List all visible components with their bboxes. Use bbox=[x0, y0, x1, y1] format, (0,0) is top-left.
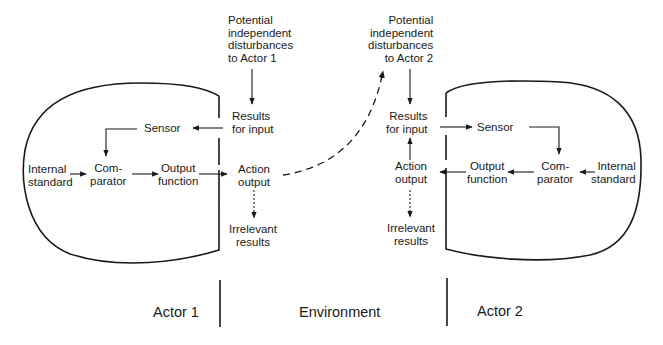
environment-region-label: Environment bbox=[299, 304, 380, 320]
arrow-sensor-to-comparator1 bbox=[106, 129, 137, 156]
sensor1-label: Sensor bbox=[144, 122, 180, 135]
irrelevant-results1-label: Irrelevant results bbox=[229, 223, 277, 248]
irrelevant-results2-label: Irrelevant results bbox=[387, 222, 435, 247]
comparator2-label: Com- parator bbox=[537, 160, 573, 185]
actor1-region-label: Actor 1 bbox=[153, 304, 199, 320]
arrow-action1-to-disturbances2 bbox=[283, 71, 383, 175]
disturbances-actor1-label: Potential independent disturbances to Ac… bbox=[228, 14, 293, 64]
arrow-sensor-to-comparator2 bbox=[529, 127, 559, 154]
actor2-region-label: Actor 2 bbox=[477, 303, 523, 319]
sensor2-label: Sensor bbox=[477, 121, 513, 134]
output-function1-label: Output function bbox=[158, 162, 198, 187]
results-for-input-2-label: Results for input bbox=[386, 110, 428, 135]
comparator1-label: Com- parator bbox=[90, 162, 126, 187]
disturbances-actor2-label: Potential independent disturbances to Ac… bbox=[368, 14, 433, 64]
action-output2-label: Action output bbox=[395, 160, 427, 185]
action-output1-label: Action output bbox=[238, 163, 270, 188]
internal-standard1-label: Internal standard bbox=[28, 163, 73, 188]
internal-standard2-label: Internal standard bbox=[591, 160, 636, 185]
results-for-input-1-label: Results for input bbox=[232, 110, 274, 135]
output-function2-label: Output function bbox=[467, 160, 507, 185]
